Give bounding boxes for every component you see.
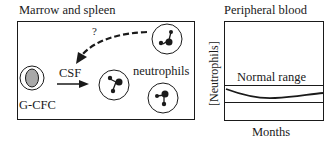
- csf-label: CSF: [59, 66, 81, 80]
- neutrophil-count-curve: [226, 89, 323, 98]
- normal-range-label: Normal range: [237, 70, 306, 84]
- g-cfc-cell: [20, 66, 44, 90]
- neutrophil-cell-bottom: [148, 83, 178, 113]
- g-cfc-label: G-CFC: [19, 98, 56, 112]
- y-axis-label: [Neutrophils]: [208, 41, 221, 106]
- x-axis-label: Months: [252, 125, 290, 139]
- question-mark-label: ?: [92, 24, 97, 38]
- neutrophil-cell-top: [152, 24, 182, 54]
- neutrophils-label: neutrophils: [133, 64, 189, 78]
- csf-arrow: [57, 80, 89, 88]
- neutrophil-cell-middle: [99, 70, 129, 100]
- feedback-dashed-arrow: [76, 32, 147, 64]
- peripheral-blood-title: Peripheral blood: [224, 3, 307, 17]
